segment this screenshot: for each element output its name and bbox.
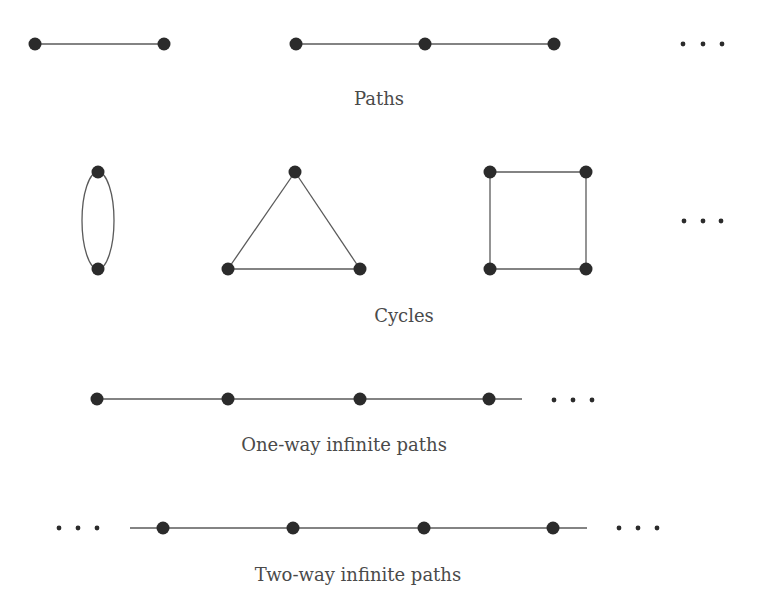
vertex-node (157, 522, 170, 535)
vertex-node (92, 263, 105, 276)
two-way-left-ellipsis-dot (76, 526, 81, 531)
vertex-node (29, 38, 42, 51)
vertex-node (354, 393, 367, 406)
vertex-node (290, 38, 303, 51)
two-way-right-ellipsis-dot (655, 526, 660, 531)
vertex-node (158, 38, 171, 51)
two-way-right-ellipsis-dot (617, 526, 622, 531)
cycles-ellipsis-dot (682, 219, 687, 224)
two-way-left-ellipsis-dot (57, 526, 62, 531)
vertex-node (287, 522, 300, 535)
vertex-node (222, 393, 235, 406)
two-way-right-ellipsis-dot (636, 526, 641, 531)
one-way-ellipsis-dot (571, 398, 576, 403)
vertex-node (484, 166, 497, 179)
cycle-c3-edge (228, 172, 295, 269)
two-way-left-ellipsis-dot (95, 526, 100, 531)
vertex-node (548, 38, 561, 51)
vertex-node (483, 393, 496, 406)
cycle-c3-edge (295, 172, 360, 269)
caption-one-way-infinite-paths: One-way infinite paths (241, 434, 447, 455)
paths-ellipsis-dot (681, 42, 686, 47)
vertex-node (222, 263, 235, 276)
vertex-node (419, 38, 432, 51)
vertex-node (92, 166, 105, 179)
paths-ellipsis-dot (720, 42, 725, 47)
vertex-node (289, 166, 302, 179)
vertex-node (580, 263, 593, 276)
caption-paths: Paths (354, 88, 404, 109)
cycle-c2-edge (82, 172, 114, 269)
vertex-node (580, 166, 593, 179)
one-way-ellipsis-dot (552, 398, 557, 403)
caption-two-way-infinite-paths: Two-way infinite paths (255, 564, 461, 585)
vertex-node (91, 393, 104, 406)
vertex-node (547, 522, 560, 535)
caption-cycles: Cycles (374, 305, 434, 326)
vertex-node (484, 263, 497, 276)
vertex-node (418, 522, 431, 535)
vertex-node (354, 263, 367, 276)
one-way-ellipsis-dot (590, 398, 595, 403)
cycles-ellipsis-dot (719, 219, 724, 224)
paths-ellipsis-dot (701, 42, 706, 47)
cycles-ellipsis-dot (701, 219, 706, 224)
